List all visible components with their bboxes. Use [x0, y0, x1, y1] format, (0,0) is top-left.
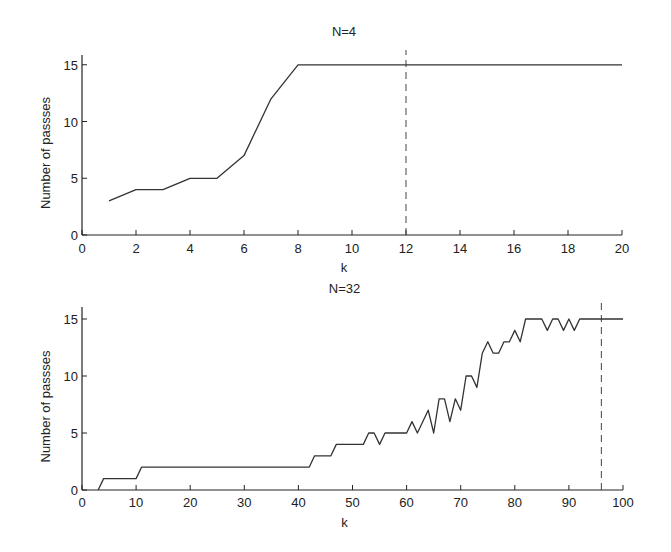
plot-area: 02468101214161820051015: [64, 50, 630, 256]
x-tick-label: 90: [562, 495, 576, 510]
x-tick-label: 10: [345, 241, 359, 256]
y-tick-label: 0: [71, 228, 78, 243]
chart-panel-n4: N=4 02468101214161820051015 k Number of …: [38, 24, 629, 275]
x-tick-label: 100: [612, 495, 634, 510]
x-tick-label: 14: [453, 241, 467, 256]
y-tick-label: 15: [64, 58, 78, 73]
x-axis-label: k: [341, 260, 348, 275]
chart-title: N=4: [332, 24, 356, 39]
y-tick-label: 5: [71, 426, 78, 441]
x-tick-label: 0: [78, 495, 85, 510]
x-tick-label: 40: [291, 495, 305, 510]
data-line: [109, 65, 622, 201]
x-tick-label: 0: [78, 241, 85, 256]
x-tick-label: 30: [237, 495, 251, 510]
x-tick-label: 20: [615, 241, 629, 256]
y-tick-label: 0: [71, 483, 78, 498]
x-tick-label: 70: [453, 495, 467, 510]
x-tick-label: 6: [240, 241, 247, 256]
x-tick-label: 2: [132, 241, 139, 256]
plot-area: 0102030405060708090100051015: [64, 302, 634, 510]
x-tick-label: 18: [561, 241, 575, 256]
y-tick-label: 10: [64, 369, 78, 384]
chart-panel-n32: N=32 0102030405060708090100051015 k Numb…: [38, 281, 634, 530]
x-tick-label: 16: [507, 241, 521, 256]
x-tick-label: 8: [294, 241, 301, 256]
x-axis-label: k: [341, 515, 348, 530]
x-tick-label: 10: [129, 495, 143, 510]
y-tick-label: 15: [64, 312, 78, 327]
chart-title: N=32: [329, 281, 360, 296]
y-axis-label: Number of passses: [38, 350, 53, 462]
data-line: [98, 319, 623, 490]
y-tick-label: 10: [64, 115, 78, 130]
figure: N=4 02468101214161820051015 k Number of …: [0, 0, 671, 552]
x-tick-label: 50: [345, 495, 359, 510]
y-axis-label: Number of passses: [38, 97, 53, 209]
x-tick-label: 4: [186, 241, 193, 256]
x-tick-label: 60: [399, 495, 413, 510]
x-tick-label: 20: [183, 495, 197, 510]
y-tick-label: 5: [71, 171, 78, 186]
x-tick-label: 12: [399, 241, 413, 256]
x-tick-label: 80: [508, 495, 522, 510]
